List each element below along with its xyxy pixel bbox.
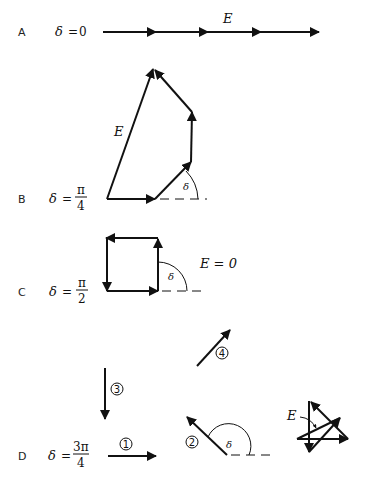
panel-c-delta-denominator: 2 (78, 292, 86, 306)
panel-c-equals: = (62, 285, 72, 299)
panel-b-label: B (18, 193, 26, 206)
panel-c-delta-symbol: δ (49, 284, 57, 299)
panel-b: B δ = π 4 E δ (18, 69, 207, 213)
panel-c: C δ = π 2 δ E = 0 (18, 238, 237, 306)
panel-c-angle-label: δ (168, 271, 174, 282)
panel-b-delta-denominator: 4 (77, 199, 85, 213)
panel-d-resultant-label: E (286, 408, 297, 423)
panel-c-resultant-text: E = 0 (199, 256, 237, 271)
phasor-d-4-number: 4 (219, 348, 225, 359)
panel-a-delta-symbol: δ (55, 24, 63, 39)
panel-b-equals: = (62, 192, 72, 206)
phasor-d-1-number: 1 (123, 439, 129, 450)
panel-b-angle-label: δ (183, 181, 189, 192)
panel-a-label: A (18, 26, 26, 39)
star-resultant (297, 418, 340, 439)
panel-a: A δ = 0 E (18, 11, 319, 39)
panel-c-label: C (18, 286, 26, 299)
panel-d-label: D (18, 450, 26, 463)
phasor-sum-star: E (286, 401, 348, 452)
panel-a-delta-value: 0 (79, 25, 87, 39)
phasor-diagram: A δ = 0 E B δ = π 4 E δ C δ = π 2 (0, 0, 375, 477)
phasor-b-3 (191, 112, 192, 162)
panel-a-resultant-label: E (222, 11, 233, 26)
phasor-d-2-number: 2 (189, 437, 195, 448)
panel-b-delta-numerator: π (77, 183, 85, 197)
panel-a-equals: = (68, 25, 78, 39)
panel-d-equals: = (61, 449, 71, 463)
star-phasor-4 (309, 418, 340, 452)
panel-d-angle-label: δ (226, 439, 232, 450)
panel-b-resultant-label: E (113, 124, 124, 139)
phasor-b-4 (155, 70, 192, 112)
panel-d-delta-symbol: δ (48, 448, 56, 463)
star-phasor-2 (311, 402, 348, 439)
panel-d-delta-denominator: 4 (77, 456, 85, 470)
phasor-d-3-number: 3 (114, 384, 120, 395)
panel-c-delta-numerator: π (78, 276, 86, 290)
panel-d-delta-numerator: 3π (73, 440, 89, 454)
panel-b-delta-symbol: δ (49, 191, 57, 206)
panel-d: D δ = 3π 4 1 3 4 2 δ E (18, 330, 348, 470)
